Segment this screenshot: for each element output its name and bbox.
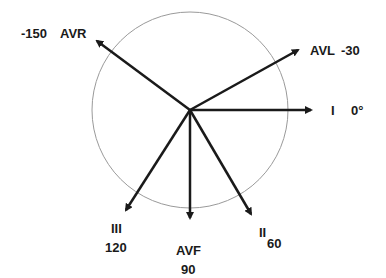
diagram-canvas — [0, 0, 386, 278]
lead-iii-angle: 120 — [105, 241, 127, 254]
lead-ii-name: II — [259, 226, 266, 239]
lead-avl-angle: -30 — [341, 44, 360, 57]
lead-avr-angle: -150 — [21, 27, 47, 40]
lead-i-angle: 0° — [351, 104, 363, 117]
lead-avf-name: AVF — [176, 244, 201, 257]
lead-avr-arrow — [97, 41, 190, 110]
lead-avr-name: AVR — [60, 27, 86, 40]
lead-avl-arrow — [190, 50, 298, 110]
lead-avf-angle: 90 — [181, 263, 195, 276]
hexaxial-diagram: -150 AVR AVL -30 I 0° III 120 AVF 90 II … — [0, 0, 386, 278]
lead-ii-angle: 60 — [267, 237, 281, 250]
lead-ii-arrow — [190, 110, 251, 214]
lead-i-name: I — [331, 104, 335, 117]
lead-avl-name: AVL — [310, 44, 335, 57]
lead-iii-name: III — [111, 222, 122, 235]
lead-iii-arrow — [126, 110, 190, 210]
